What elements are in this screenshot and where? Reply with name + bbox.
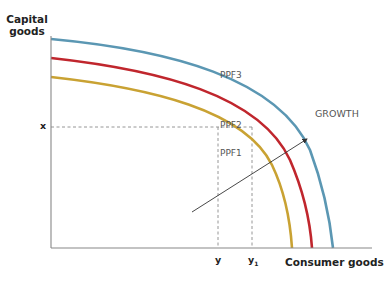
y-value-tick: y: [215, 254, 221, 265]
ppf3-curve: [51, 39, 333, 248]
x-axis-label: Consumer goods: [285, 256, 384, 268]
y1-value-tick: y1: [248, 254, 258, 267]
ppf-diagram: [0, 0, 387, 282]
ppf2-curve: [51, 58, 312, 248]
y1-subscript: 1: [254, 260, 258, 267]
ppf1-label: PPF1: [220, 148, 242, 158]
ppf3-label: PPF3: [220, 70, 242, 80]
x-value-tick: x: [40, 120, 46, 131]
growth-label: GROWTH: [315, 108, 359, 119]
y-axis-label-line2: goods: [6, 25, 48, 37]
ppf1-curve: [51, 77, 292, 248]
ppf2-label: PPF2: [220, 120, 242, 130]
growth-arrow: [192, 139, 307, 212]
y-axis-label: Capital goods: [6, 13, 48, 37]
y-axis-label-line1: Capital: [6, 13, 48, 25]
